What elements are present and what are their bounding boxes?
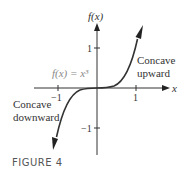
concave-downward-label-line1: Concave (13, 98, 52, 110)
y-tick-label-neg1: −1 (81, 123, 92, 134)
curve-arrow-down-icon (52, 137, 58, 150)
x-axis-label: x (171, 82, 177, 94)
curve-arrow-up-icon (136, 25, 144, 39)
concave-upward-label-line1: Concave (137, 54, 176, 66)
cubic-function-graph: f(x) x −1 1 1 −1 f(x) = x³ Concave upwar… (0, 0, 189, 177)
y-axis-label: f(x) (88, 10, 104, 23)
y-axis-arrow-icon (94, 23, 100, 31)
figure-caption: FIGURE 4 (12, 157, 63, 168)
concave-downward-label-line2: downward (13, 111, 60, 123)
function-label: f(x) = x³ (52, 67, 89, 80)
x-axis-arrow-icon (162, 85, 170, 91)
x-tick-label-neg1: −1 (51, 92, 62, 103)
y-tick-label-pos1: 1 (87, 43, 92, 54)
concave-upward-label-line2: upward (137, 67, 170, 79)
x-tick-label-pos1: 1 (133, 92, 138, 103)
